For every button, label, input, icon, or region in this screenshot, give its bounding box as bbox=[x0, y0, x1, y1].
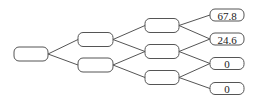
leaf-node-ddd: 0 bbox=[210, 83, 244, 96]
node-level1-up bbox=[78, 33, 113, 47]
node-level1-down bbox=[78, 58, 113, 72]
edge bbox=[113, 52, 145, 66]
node-level2-ud bbox=[145, 45, 179, 59]
leaf-value: 67.8 bbox=[217, 10, 237, 22]
leaf-value: 0 bbox=[224, 58, 230, 70]
edge bbox=[48, 40, 78, 55]
edge bbox=[113, 65, 145, 78]
root-node bbox=[14, 47, 48, 61]
edge bbox=[113, 40, 145, 52]
edge bbox=[179, 39, 210, 52]
leaf-value: 24.6 bbox=[217, 34, 237, 46]
edge bbox=[179, 26, 210, 40]
edge bbox=[113, 26, 145, 40]
node-level2-dd bbox=[145, 71, 179, 85]
binomial-tree-diagram: 67.8 24.6 0 0 bbox=[0, 0, 258, 103]
leaf-node-uuu: 67.8 bbox=[210, 9, 244, 22]
node-level2-uu bbox=[145, 19, 179, 33]
leaf-value: 0 bbox=[224, 83, 230, 95]
edge bbox=[179, 15, 210, 26]
edge bbox=[179, 64, 210, 78]
edge bbox=[48, 54, 78, 65]
leaf-node-uud: 24.6 bbox=[210, 33, 244, 46]
edge bbox=[179, 78, 210, 89]
leaf-node-udd: 0 bbox=[210, 58, 244, 71]
edge bbox=[179, 52, 210, 64]
